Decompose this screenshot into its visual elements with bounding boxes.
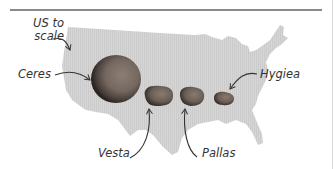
asteroid-ceres	[91, 55, 141, 103]
label-us-to-scale: US toscale	[22, 17, 64, 43]
label-vesta: Vesta	[98, 147, 130, 160]
label-pallas: Pallas	[202, 147, 235, 160]
asteroid-pallas	[180, 87, 204, 106]
label-ceres: Ceres	[18, 68, 51, 81]
asteroid-vesta	[145, 86, 173, 106]
label-hygiea: Hygiea	[260, 68, 300, 81]
